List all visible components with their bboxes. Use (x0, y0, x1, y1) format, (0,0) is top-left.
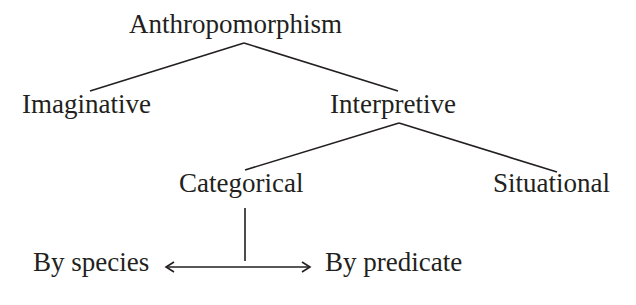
node-anthropomorphism: Anthropomorphism (129, 11, 342, 38)
node-by-species: By species (33, 249, 149, 276)
edge-interpretive-categorical (245, 123, 399, 170)
taxonomy-diagram: Anthropomorphism Imaginative Interpretiv… (0, 0, 636, 305)
node-imaginative: Imaginative (22, 91, 151, 118)
node-categorical: Categorical (179, 170, 303, 197)
node-situational: Situational (493, 170, 610, 197)
node-interpretive: Interpretive (330, 91, 456, 118)
edge-root-interpretive (244, 43, 398, 91)
edge-interpretive-situational (399, 123, 557, 172)
node-by-predicate: By predicate (325, 249, 462, 276)
edge-root-imaginative (90, 43, 244, 91)
